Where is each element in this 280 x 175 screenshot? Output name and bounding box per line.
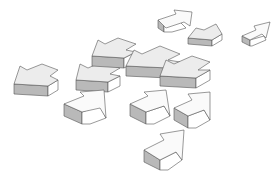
arrow-upright-2-icon bbox=[130, 90, 170, 124]
arrow-top-right-icon bbox=[188, 24, 222, 46]
arrow-upright-bottom-icon bbox=[144, 130, 184, 170]
arrows-illustration bbox=[0, 0, 280, 175]
arrows-graphic bbox=[0, 0, 280, 175]
arrow-right-small-icon bbox=[242, 22, 270, 46]
arrow-left-far-icon bbox=[14, 64, 58, 96]
arrow-center-left-2-icon bbox=[160, 56, 210, 88]
arrow-upright-1-icon bbox=[64, 90, 106, 124]
arrow-top-up-icon bbox=[158, 10, 192, 32]
arrow-upright-3-icon bbox=[174, 92, 210, 128]
